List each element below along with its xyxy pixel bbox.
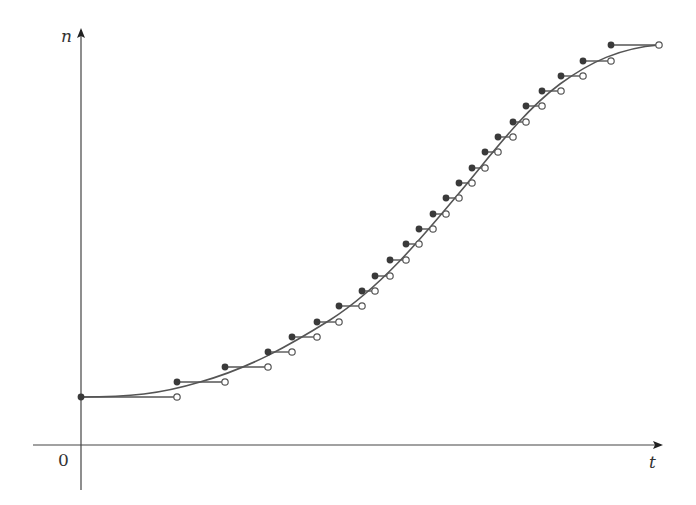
open-endpoint-dot <box>443 211 449 217</box>
closed-endpoint-dot <box>314 319 321 326</box>
origin-label: 0 <box>58 450 69 470</box>
closed-endpoint-dot <box>580 58 587 65</box>
open-endpoint-dot <box>558 88 564 94</box>
closed-endpoint-dot <box>387 257 394 264</box>
open-endpoint-dot <box>510 134 516 140</box>
open-endpoint-dot <box>387 273 393 279</box>
closed-endpoint-dot <box>482 149 489 156</box>
closed-endpoint-dot <box>174 379 181 386</box>
closed-endpoint-dot <box>558 73 565 80</box>
open-endpoint-dot <box>656 42 662 48</box>
closed-endpoint-dot <box>265 349 272 356</box>
open-endpoint-dot <box>174 394 180 400</box>
x-axis-label: t <box>649 452 656 472</box>
step-segment <box>289 334 321 341</box>
open-endpoint-dot <box>289 349 295 355</box>
closed-endpoint-dot <box>372 273 379 280</box>
closed-endpoint-dot <box>469 165 476 172</box>
step-segment <box>336 303 366 310</box>
open-endpoint-dot <box>403 257 409 263</box>
step-segment <box>558 73 587 80</box>
closed-endpoint-dot <box>336 303 343 310</box>
open-endpoint-dot <box>523 119 529 125</box>
open-endpoint-dot <box>359 303 365 309</box>
open-endpoint-dot <box>482 165 488 171</box>
step-segment <box>174 379 229 386</box>
closed-endpoint-dot <box>416 226 423 233</box>
open-endpoint-dot <box>608 58 614 64</box>
closed-endpoint-dot <box>456 180 463 187</box>
step-function <box>78 42 663 401</box>
closed-endpoint-dot <box>510 119 517 126</box>
closed-endpoint-dot <box>78 394 85 401</box>
closed-endpoint-dot <box>608 42 615 49</box>
closed-endpoint-dot <box>539 88 546 95</box>
open-endpoint-dot <box>539 103 545 109</box>
closed-endpoint-dot <box>289 334 296 341</box>
open-endpoint-dot <box>430 226 436 232</box>
y-axis-label: n <box>61 26 72 46</box>
open-endpoint-dot <box>469 180 475 186</box>
step-function-diagram: n t 0 <box>0 0 696 505</box>
closed-endpoint-dot <box>523 103 530 110</box>
closed-endpoint-dot <box>222 364 229 371</box>
step-segment <box>608 42 663 49</box>
open-endpoint-dot <box>265 364 271 370</box>
step-segment <box>495 134 517 141</box>
open-endpoint-dot <box>372 288 378 294</box>
closed-endpoint-dot <box>359 288 366 295</box>
step-segment <box>78 394 181 401</box>
open-endpoint-dot <box>336 319 342 325</box>
step-segment <box>359 288 379 295</box>
step-segment <box>539 88 565 95</box>
closed-endpoint-dot <box>403 241 410 248</box>
step-segment <box>222 364 272 371</box>
open-endpoint-dot <box>314 334 320 340</box>
open-endpoint-dot <box>495 149 501 155</box>
open-endpoint-dot <box>222 379 228 385</box>
step-segment <box>580 58 615 65</box>
open-endpoint-dot <box>580 73 586 79</box>
open-endpoint-dot <box>456 195 462 201</box>
closed-endpoint-dot <box>430 211 437 218</box>
step-segment <box>314 319 343 326</box>
closed-endpoint-dot <box>443 195 450 202</box>
step-segment <box>510 119 530 126</box>
closed-endpoint-dot <box>495 134 502 141</box>
smooth-curve <box>81 45 659 397</box>
open-endpoint-dot <box>416 241 422 247</box>
step-segment <box>523 103 546 110</box>
